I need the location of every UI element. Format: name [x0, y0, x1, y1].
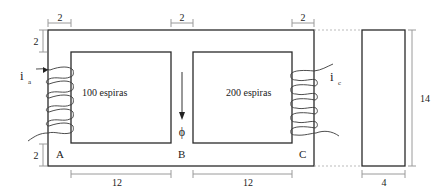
svg-text:100 espiras: 100 espiras — [82, 87, 127, 98]
current-arrow-a-icon — [43, 67, 48, 73]
svg-text:4: 4 — [382, 177, 387, 188]
svg-text:2: 2 — [58, 12, 63, 23]
dim-top-right: 2 — [292, 12, 314, 27]
dim-left-top: 2 — [34, 30, 48, 52]
coil-left: i a 100 espiras — [20, 67, 127, 141]
dim-side-depth: 4 — [362, 170, 405, 188]
dim-window-right: 12 — [193, 170, 292, 188]
magnetic-circuit-diagram: 2 2 2 2 2 12 12 — [0, 0, 447, 191]
svg-text:2: 2 — [180, 12, 185, 23]
label-b: B — [178, 148, 185, 160]
dim-window-left: 12 — [71, 170, 171, 188]
svg-text:2: 2 — [34, 36, 39, 47]
svg-text:i: i — [330, 69, 334, 84]
core-side-view — [362, 30, 405, 166]
svg-text:14: 14 — [420, 93, 430, 104]
dim-side-height: 14 — [408, 30, 430, 166]
flux-arrow: ϕ — [179, 72, 185, 139]
dim-top-left: 2 — [48, 12, 71, 27]
svg-text:i: i — [20, 68, 24, 83]
label-c: C — [299, 148, 306, 160]
svg-text:200 espiras: 200 espiras — [226, 87, 271, 98]
label-a: A — [56, 148, 64, 160]
svg-text:2: 2 — [301, 12, 306, 23]
dim-top-center: 2 — [171, 12, 193, 27]
svg-text:12: 12 — [112, 177, 122, 188]
dim-left-bottom: 2 — [34, 144, 48, 166]
svg-text:a: a — [28, 78, 32, 86]
svg-text:2: 2 — [34, 150, 39, 161]
core-outer-outline — [48, 30, 314, 166]
svg-text:ϕ: ϕ — [179, 125, 185, 139]
coil-right: i c 200 espiras — [226, 64, 341, 136]
svg-text:12: 12 — [243, 177, 253, 188]
arrow-down-icon — [179, 112, 185, 120]
svg-text:c: c — [338, 79, 341, 87]
